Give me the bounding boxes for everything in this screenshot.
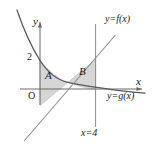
vertical-line-label: x=4 [81, 128, 97, 138]
region-a-label: A [45, 70, 52, 81]
graph-canvas [0, 0, 154, 146]
curve-g-label: y=g(x) [107, 91, 134, 101]
curve-f-label: y=f(x) [105, 14, 130, 24]
x-axis-label: x [136, 76, 141, 87]
region-b-label: B [79, 66, 86, 77]
y-axis-arrow-icon [38, 22, 42, 28]
y-axis-label: y [33, 16, 38, 27]
y-tick-label-2: 2 [27, 52, 32, 62]
origin-label: O [28, 91, 35, 101]
x-axis-arrow-icon [137, 87, 143, 91]
figure-container: y x 2 O A B y=f(x) y=g(x) x=4 [0, 0, 154, 146]
